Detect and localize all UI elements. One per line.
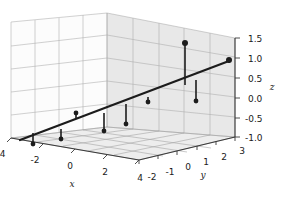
z-tick-label-5: -1.0 bbox=[245, 133, 263, 143]
marker-9 bbox=[226, 57, 232, 63]
marker-3 bbox=[74, 111, 79, 116]
y-tick-label-5: 3 bbox=[239, 146, 245, 156]
z-axis-label: z bbox=[269, 82, 275, 92]
x-tick-label-2: 0 bbox=[67, 161, 73, 171]
figure-canvas: -4 -2 0 2 4 -2 -1 0 1 2 3 1.5 1.0 0.5 0.… bbox=[0, 0, 289, 209]
y-tick-label-3: 1 bbox=[203, 157, 209, 167]
x-tick-label-1: -2 bbox=[31, 155, 40, 165]
x-tick-label-4: 4 bbox=[137, 173, 143, 183]
z-tick-label-3: 0.0 bbox=[248, 94, 263, 104]
plot-3d-axes: -4 -2 0 2 4 -2 -1 0 1 2 3 1.5 1.0 0.5 0.… bbox=[0, 0, 289, 209]
z-tick-label-0: 1.5 bbox=[248, 34, 262, 44]
y-tick-label-1: -1 bbox=[166, 167, 175, 177]
marker-8 bbox=[194, 99, 199, 104]
y-tick-label-2: 0 bbox=[185, 162, 191, 172]
x-axis-label: x bbox=[69, 179, 74, 189]
marker-5 bbox=[124, 122, 129, 127]
marker-7 bbox=[182, 40, 188, 46]
y-axis-label: y bbox=[199, 170, 206, 180]
marker-1 bbox=[31, 142, 36, 147]
z-axis-ticks bbox=[235, 38, 240, 137]
marker-6 bbox=[146, 100, 151, 105]
marker-4 bbox=[102, 129, 107, 134]
marker-2 bbox=[59, 137, 64, 142]
z-tick-label-1: 1.0 bbox=[248, 54, 263, 64]
x-tick-label-0: -4 bbox=[0, 149, 6, 159]
z-tick-label-2: 0.5 bbox=[248, 74, 262, 84]
x-tick-label-3: 2 bbox=[102, 167, 108, 177]
z-tick-label-4: -0.5 bbox=[245, 114, 263, 124]
y-tick-label-0: -2 bbox=[148, 172, 157, 182]
y-tick-label-4: 2 bbox=[221, 152, 227, 162]
